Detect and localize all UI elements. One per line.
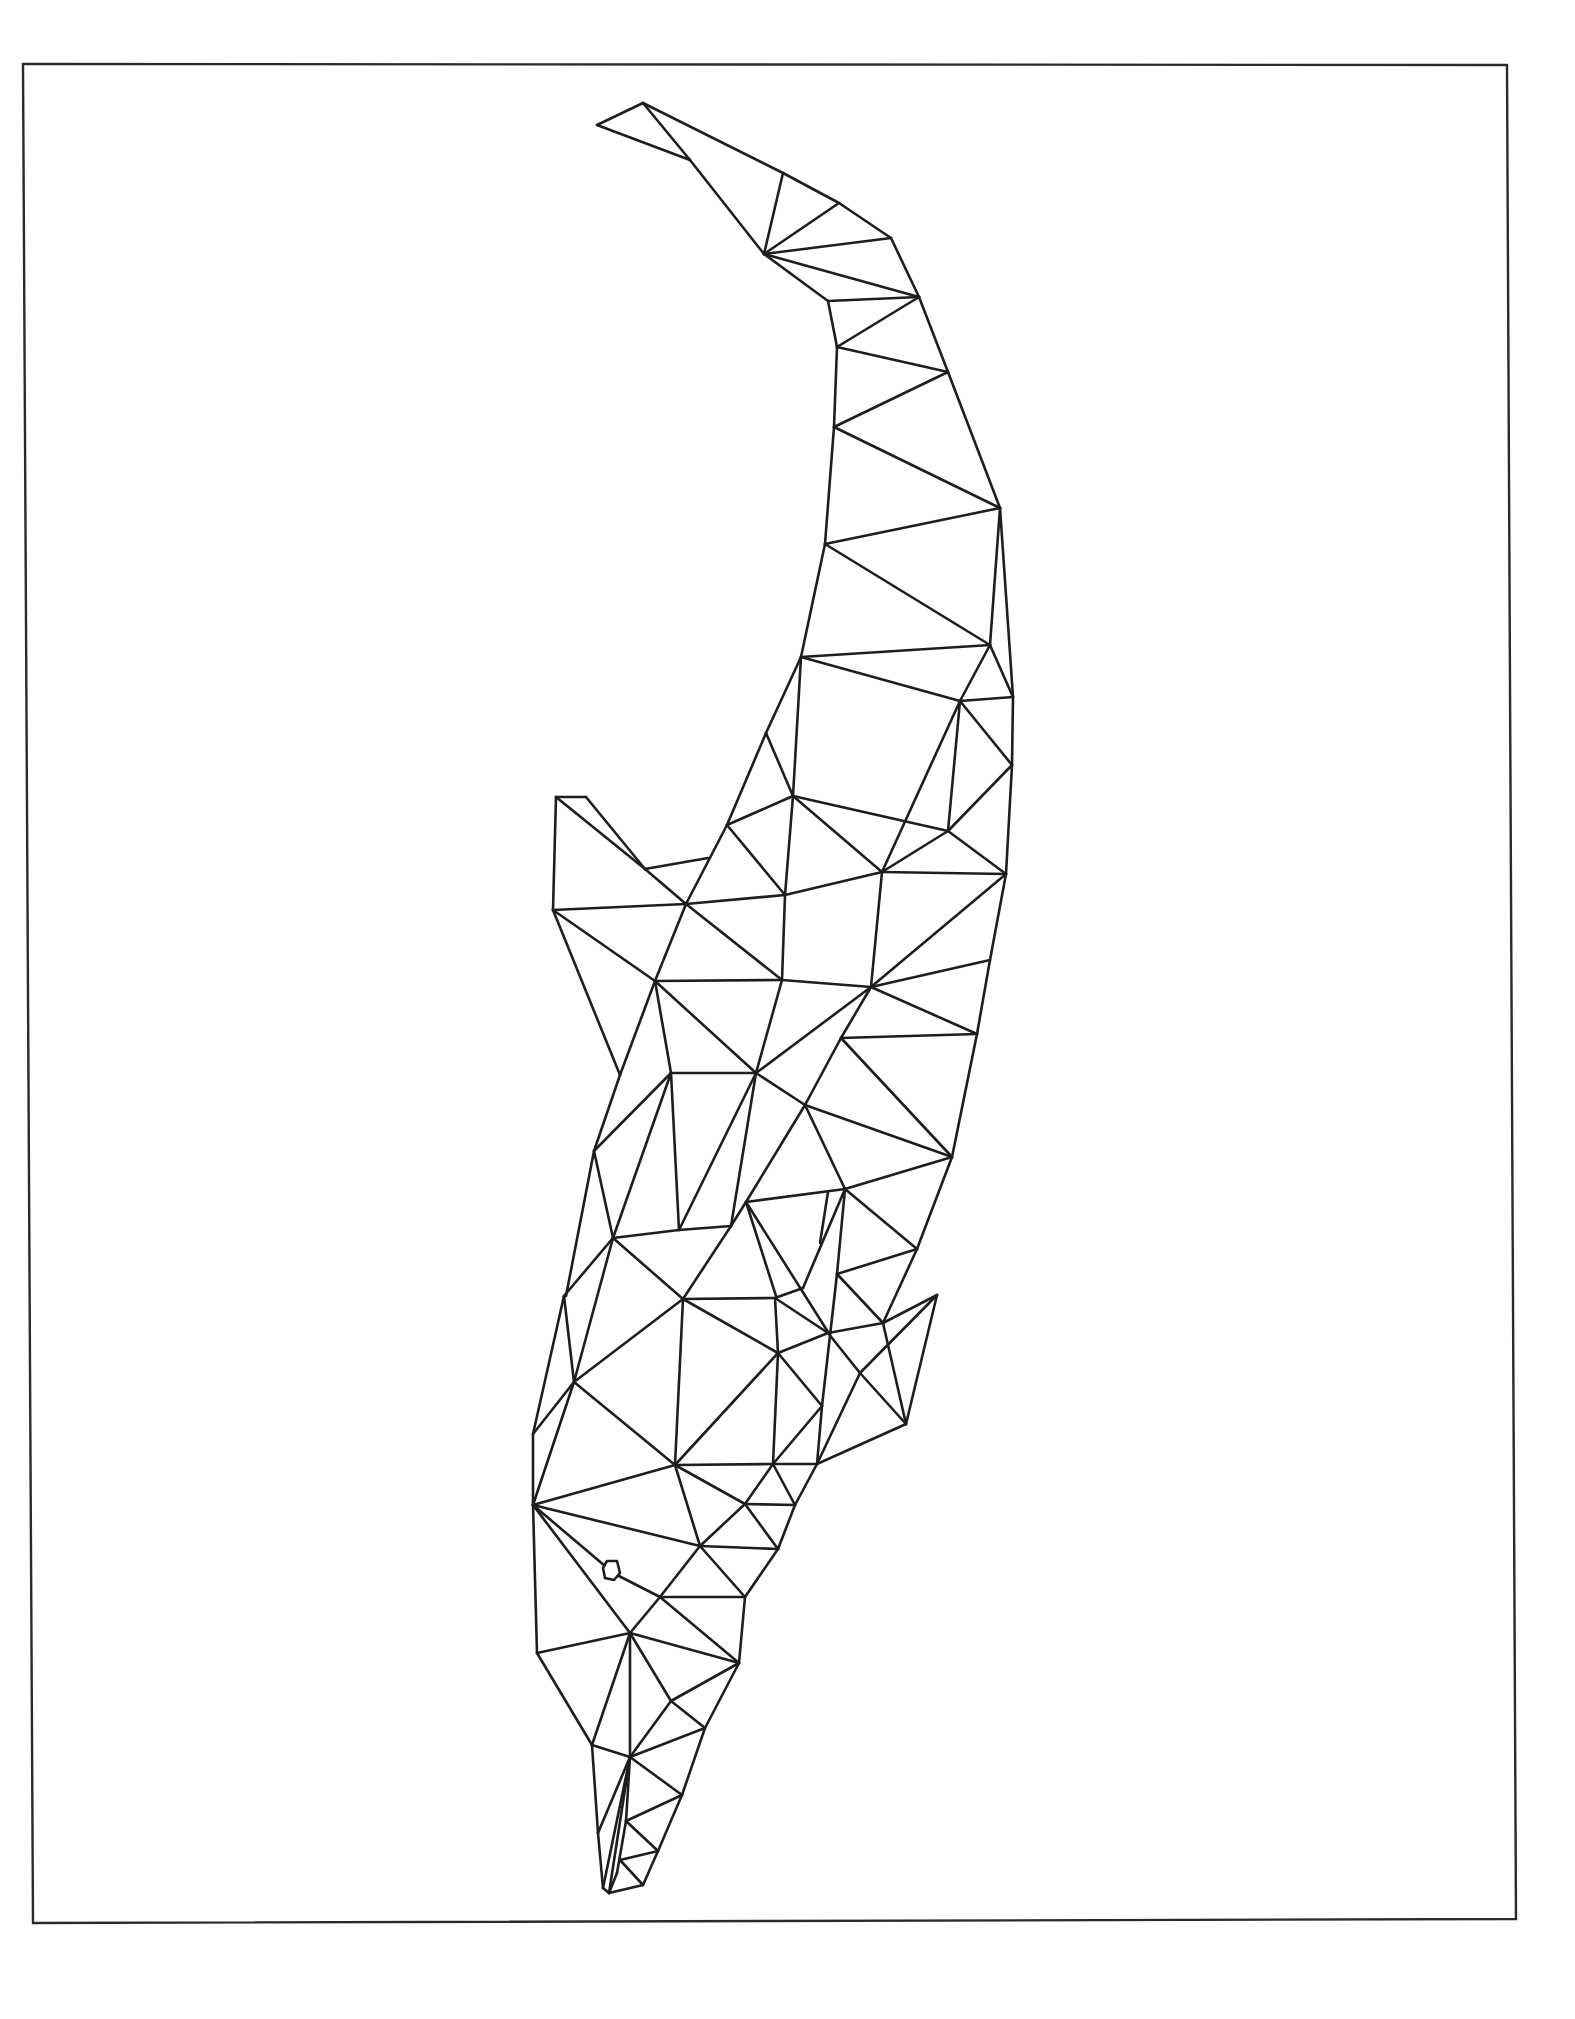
mesh-edge bbox=[778, 1353, 822, 1406]
mesh-edge bbox=[845, 1157, 952, 1189]
mesh-edge bbox=[683, 1299, 778, 1353]
mesh-edge bbox=[960, 697, 1013, 701]
mesh-edge bbox=[630, 1757, 682, 1795]
mesh-edge bbox=[537, 1633, 630, 1653]
mesh-edge bbox=[883, 1249, 917, 1323]
mesh-edge bbox=[655, 904, 686, 981]
mesh-edge bbox=[883, 1295, 937, 1323]
mesh-edge bbox=[834, 372, 948, 427]
mesh-edge bbox=[745, 1549, 778, 1597]
mesh-edge bbox=[739, 1597, 745, 1663]
mesh-edge bbox=[839, 203, 891, 238]
mesh-edge bbox=[683, 1298, 775, 1299]
mesh-hole bbox=[603, 1561, 620, 1580]
mesh-edge bbox=[834, 427, 1000, 508]
mesh-edge bbox=[533, 1465, 675, 1505]
mesh-edge bbox=[795, 1464, 817, 1505]
mesh-edge bbox=[613, 1238, 683, 1299]
mesh-edge bbox=[825, 544, 990, 645]
mesh-edge bbox=[756, 1073, 805, 1105]
mesh-edge bbox=[828, 1323, 883, 1333]
mesh-edge bbox=[553, 797, 556, 910]
mesh-edge bbox=[871, 872, 882, 987]
mesh-edge bbox=[746, 1202, 828, 1332]
mesh-edge bbox=[977, 960, 990, 1034]
mesh-edge bbox=[919, 297, 948, 372]
mesh-edge bbox=[801, 657, 960, 701]
mesh-edge bbox=[828, 297, 919, 301]
mesh-edge bbox=[917, 1157, 952, 1249]
mesh-edge bbox=[586, 797, 645, 869]
mesh-edge bbox=[828, 301, 837, 347]
mesh-edge bbox=[960, 645, 990, 701]
mesh-edge bbox=[841, 987, 871, 1038]
mesh-edge bbox=[745, 1464, 773, 1504]
mesh-edge bbox=[841, 1034, 977, 1038]
mesh-edge bbox=[805, 1038, 841, 1105]
mesh-edge bbox=[533, 1382, 574, 1505]
mesh-edge bbox=[775, 1288, 803, 1298]
mesh-edge bbox=[675, 1353, 778, 1465]
mesh-edge bbox=[817, 1424, 906, 1464]
mesh-edge bbox=[630, 1597, 660, 1633]
mesh-edge bbox=[834, 347, 837, 427]
mesh-edge bbox=[773, 1464, 795, 1505]
mesh-edge bbox=[882, 872, 1006, 874]
mesh-edge bbox=[764, 254, 919, 297]
mesh-edge bbox=[948, 831, 1006, 874]
mesh-edge bbox=[592, 1633, 630, 1745]
mesh-edge bbox=[906, 1295, 937, 1424]
mesh-edge bbox=[746, 1189, 845, 1202]
mesh-edge bbox=[764, 254, 828, 301]
mesh-edge bbox=[871, 874, 1006, 987]
mesh-edge bbox=[793, 796, 948, 831]
mesh-edge bbox=[700, 1504, 745, 1546]
mesh-edge bbox=[553, 904, 686, 910]
mesh-edge bbox=[773, 1406, 822, 1464]
mesh-edge bbox=[598, 1833, 603, 1888]
mesh-edge bbox=[825, 427, 834, 544]
mesh-edge bbox=[952, 1034, 977, 1157]
mesh-edge bbox=[686, 904, 782, 980]
mesh-edge bbox=[828, 1333, 860, 1373]
mesh-edge bbox=[574, 1299, 683, 1382]
mesh-edge bbox=[837, 1274, 883, 1323]
mesh-edge bbox=[643, 103, 783, 173]
mesh-edge bbox=[594, 1073, 671, 1151]
mesh-edge bbox=[778, 1333, 828, 1353]
mesh-edge bbox=[793, 657, 801, 796]
mesh-diagram bbox=[0, 0, 1575, 2019]
mesh-edge bbox=[682, 1728, 705, 1795]
mesh-edge bbox=[860, 1295, 937, 1373]
mesh-edge bbox=[783, 173, 839, 203]
mesh-edge bbox=[655, 981, 756, 1073]
mesh-edge bbox=[825, 508, 1000, 544]
mesh-edge bbox=[643, 1851, 658, 1885]
mesh-edge bbox=[675, 1464, 773, 1465]
mesh-edge bbox=[613, 1230, 679, 1238]
mesh-edge bbox=[626, 1821, 658, 1851]
mesh-edge bbox=[620, 981, 655, 1075]
mesh-edge bbox=[837, 297, 919, 347]
mesh-edge bbox=[782, 980, 871, 987]
mesh-edge bbox=[756, 980, 782, 1073]
mesh-edge bbox=[841, 1038, 952, 1157]
mesh-edge bbox=[745, 1504, 795, 1505]
mesh-edge bbox=[990, 508, 1000, 645]
mesh-edge bbox=[775, 1298, 828, 1333]
mesh-edge bbox=[960, 701, 1012, 765]
mesh-edge bbox=[773, 1353, 778, 1464]
mesh-edge bbox=[679, 1226, 731, 1230]
mesh-edge bbox=[645, 869, 686, 904]
mesh-edge bbox=[537, 1653, 592, 1745]
mesh-edge bbox=[574, 1382, 675, 1465]
mesh-edge bbox=[766, 657, 801, 733]
mesh-edge bbox=[1000, 508, 1013, 697]
mesh-edge bbox=[801, 544, 825, 657]
mesh-edge bbox=[727, 825, 785, 895]
mesh-edge bbox=[746, 1202, 776, 1296]
mesh-edges bbox=[533, 103, 1013, 1893]
mesh-edge bbox=[948, 765, 1012, 831]
mesh-edge bbox=[592, 1745, 630, 1757]
mesh-edge bbox=[778, 1505, 795, 1549]
